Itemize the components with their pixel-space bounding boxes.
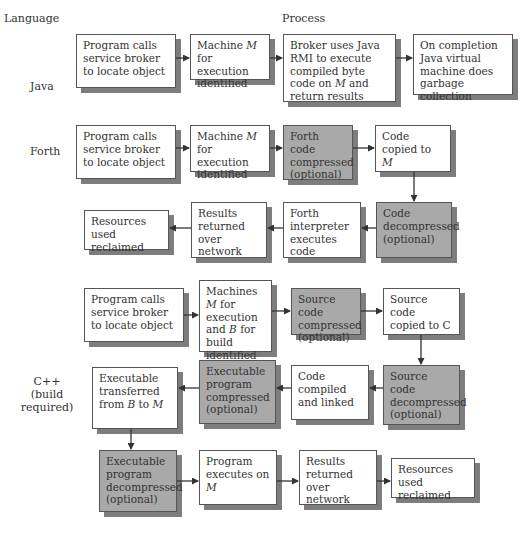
cpp-step-5-optional: Source code decompressed (optional) bbox=[383, 365, 460, 425]
cpp-step-7-optional: Executable program compressed (optional) bbox=[199, 360, 276, 424]
java-step-3: Broker uses Java RMI to execute compiled… bbox=[283, 34, 396, 102]
row-label-forth: Forth bbox=[30, 145, 60, 158]
row-label-java: Java bbox=[30, 80, 54, 93]
cpp-step-4: Source code copied to C bbox=[383, 288, 460, 335]
row-label-cpp: C++ (build required) bbox=[4, 375, 90, 414]
forth-step-8: Resources used reclaimed bbox=[84, 210, 169, 250]
cpp-step-9-optional: Executable program decompressed (optiona… bbox=[99, 450, 177, 512]
java-step-4: On completion Java virtual machine does … bbox=[413, 34, 513, 95]
forth-step-4: Code copied to M bbox=[375, 125, 451, 172]
forth-step-5-optional: Code decompressed (optional) bbox=[376, 202, 452, 258]
java-step-1: Program calls service broker to locate o… bbox=[76, 34, 176, 88]
forth-step-7: Results returned over network bbox=[191, 202, 267, 258]
cpp-step-11: Results returned over network bbox=[299, 450, 377, 505]
cpp-step-2: Machines M for execution and B for build… bbox=[199, 280, 272, 352]
cpp-step-6: Code compiled and linked bbox=[291, 365, 369, 420]
forth-step-6: Forth interpreter executes code bbox=[283, 202, 361, 258]
cpp-label-line2: (build required) bbox=[4, 388, 90, 414]
java-step-2: Machine M for execution identified bbox=[190, 34, 270, 80]
forth-step-1: Program calls service broker to locate o… bbox=[76, 125, 176, 179]
language-header: Language bbox=[4, 12, 59, 25]
process-header: Process bbox=[282, 12, 325, 25]
forth-step-2: Machine M for execution identified bbox=[190, 125, 270, 172]
cpp-step-1: Program calls service broker to locate o… bbox=[84, 288, 184, 342]
cpp-step-3-optional: Source code compressed (optional) bbox=[291, 288, 361, 335]
cpp-step-8: Executable transferred from B to M bbox=[92, 367, 178, 429]
cpp-step-10: Program executes on M bbox=[199, 450, 277, 505]
cpp-label-line1: C++ bbox=[4, 375, 90, 388]
forth-step-3-optional: Forth code compressed (optional) bbox=[283, 125, 353, 180]
cpp-step-12: Resources used reclaimed bbox=[391, 458, 475, 498]
